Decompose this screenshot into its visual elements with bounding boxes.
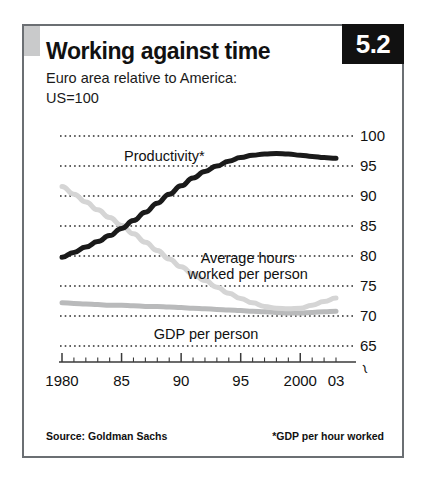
chart-footnote: *GDP per hour worked bbox=[272, 430, 384, 442]
series-annotation-line: Average hours worked per person bbox=[183, 250, 313, 282]
chart-plot-area bbox=[24, 26, 406, 460]
series-annotation-line: GDP per person bbox=[141, 326, 271, 342]
series-annotation-line: Productivity* bbox=[99, 148, 229, 164]
y-axis-tick-label: 100 bbox=[360, 127, 385, 144]
chart-source: Source: Goldman Sachs bbox=[46, 430, 167, 442]
y-axis-tick-label: 85 bbox=[360, 217, 377, 234]
y-axis-tick-label: 65 bbox=[360, 337, 377, 354]
x-axis-tick-label: 90 bbox=[153, 372, 209, 389]
series-annotation-label: GDP per person bbox=[141, 326, 271, 342]
x-axis-tick-label: 1980 bbox=[34, 372, 90, 389]
x-axis-tick-label: 95 bbox=[213, 372, 269, 389]
y-axis-tick-label: 95 bbox=[360, 157, 377, 174]
series-line bbox=[62, 153, 336, 257]
series-line bbox=[62, 186, 336, 308]
chart-series-paths bbox=[62, 153, 336, 313]
x-axis-tick-label: 03 bbox=[308, 372, 364, 389]
series-annotation-label: Productivity* bbox=[99, 148, 229, 164]
series-annotation-label: Average hours worked per person bbox=[183, 250, 313, 282]
y-axis-tick-label: 80 bbox=[360, 247, 377, 264]
y-axis-tick-label: 90 bbox=[360, 187, 377, 204]
chart-x-axis bbox=[59, 353, 356, 362]
x-axis-tick-label: 85 bbox=[94, 372, 150, 389]
y-axis-tick-label: 75 bbox=[360, 277, 377, 294]
y-axis-tick-label: 70 bbox=[360, 307, 377, 324]
chart-figure: 5.2 Working against time Euro area relat… bbox=[22, 24, 404, 458]
